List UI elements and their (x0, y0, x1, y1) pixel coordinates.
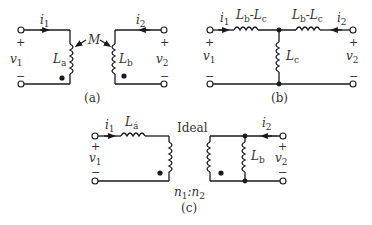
svg-text:−: − (349, 70, 358, 83)
svg-text:i1: i1 (40, 13, 50, 29)
panel-c: i1 Lá Ideal i2 Lb + v1 − + v2 − n1:n2 (c… (89, 115, 288, 215)
terminal-b-1-top[interactable] (207, 27, 213, 33)
terminal-c-2-top[interactable] (280, 133, 286, 139)
panel-a: i1 i2 + − v1 + − v2 La Lb M (a) (10, 13, 169, 105)
inductor-series-coil (121, 133, 145, 136)
svg-text:La: La (52, 52, 67, 68)
svg-text:n1:n2: n1:n2 (174, 185, 205, 201)
svg-text:Lb-Lc: Lb-Lc (291, 8, 323, 24)
transformer-secondary-coil (207, 142, 210, 172)
svg-text:Lá: Lá (124, 115, 139, 131)
svg-text:Lb: Lb (250, 149, 265, 165)
svg-text:+: + (160, 36, 169, 49)
svg-text:Lb: Lb (118, 52, 133, 68)
svg-text:+: + (349, 36, 358, 49)
caption-c: (c) (181, 201, 197, 215)
svg-text:−: − (278, 166, 287, 179)
inductor-series-right-coil (296, 27, 320, 30)
svg-text:v1: v1 (203, 49, 216, 65)
terminal-b-2-top[interactable] (350, 27, 356, 33)
svg-text:v2: v2 (275, 151, 288, 167)
panel-b: i1 Lb-Lc Lb-Lc i2 Lc + − v1 + − v2 (b) (203, 8, 359, 105)
svg-text:v1: v1 (10, 52, 23, 68)
inductor-shunt-lb-coil (242, 142, 245, 172)
dot-marker-secondary (218, 170, 223, 175)
svg-text:i1: i1 (220, 11, 230, 27)
terminal-a-2-top[interactable] (161, 27, 167, 33)
ideal-label: Ideal (177, 121, 208, 135)
svg-text:i1: i1 (105, 118, 115, 134)
svg-text:+: + (205, 36, 214, 49)
svg-text:+: + (16, 36, 25, 49)
svg-text:−: − (205, 70, 214, 83)
svg-text:i2: i2 (136, 13, 146, 29)
svg-text:Lc: Lc (285, 49, 299, 65)
svg-text:v2: v2 (156, 52, 169, 68)
terminal-c-1-top[interactable] (92, 133, 98, 139)
terminal-a-1-top[interactable] (18, 27, 24, 33)
inductor-lb-coil (112, 44, 115, 74)
svg-text:v2: v2 (346, 49, 359, 65)
transformer-primary-coil (169, 142, 172, 172)
dot-marker-primary (157, 170, 162, 175)
svg-text:M: M (87, 33, 101, 47)
circuit-figure: i1 i2 + − v1 + − v2 La Lb M (a) i1 Lb-Lc… (0, 0, 372, 225)
caption-b: (b) (271, 91, 288, 105)
dot-marker-lb (121, 73, 126, 78)
svg-text:v1: v1 (89, 151, 102, 167)
dot-marker-la (59, 75, 64, 80)
svg-text:−: − (16, 70, 25, 83)
svg-text:i2: i2 (262, 116, 272, 132)
svg-text:i2: i2 (337, 11, 347, 27)
caption-a: (a) (84, 91, 101, 105)
svg-text:Lb-Lc: Lb-Lc (235, 8, 267, 24)
inductor-series-left-coil (234, 27, 258, 30)
svg-text:−: − (160, 70, 169, 83)
circuit-diagram: i1 i2 + − v1 + − v2 La Lb M (a) i1 Lb-Lc… (0, 0, 372, 225)
inductor-la-coil (70, 44, 73, 74)
inductor-shunt-coil (276, 42, 279, 72)
svg-text:−: − (91, 166, 100, 179)
